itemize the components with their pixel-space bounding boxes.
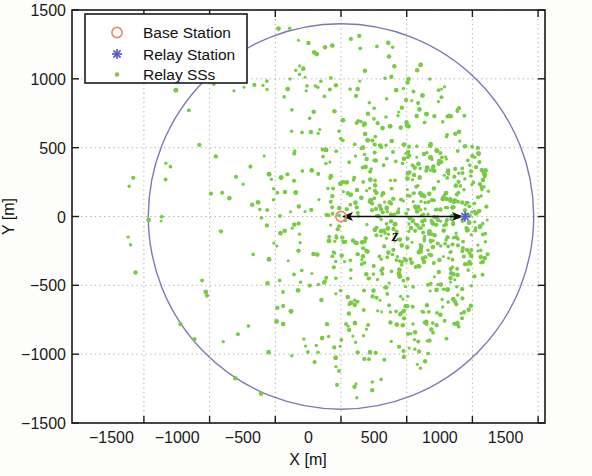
relay-ss-point bbox=[324, 276, 328, 280]
relay-ss-point bbox=[328, 176, 332, 180]
relay-ss-point bbox=[428, 143, 433, 148]
relay-ss-point bbox=[385, 222, 389, 226]
relay-ss-point bbox=[479, 261, 482, 264]
relay-ss-point bbox=[455, 267, 459, 271]
relay-ss-point bbox=[424, 112, 429, 117]
relay-ss-point bbox=[413, 338, 416, 341]
relay-ss-point bbox=[334, 292, 337, 295]
relay-ss-point bbox=[362, 334, 365, 337]
relay-ss-point bbox=[380, 310, 383, 313]
relay-ss-point bbox=[169, 165, 173, 169]
relay-ss-point bbox=[293, 190, 298, 195]
relay-ss-point bbox=[370, 388, 374, 392]
relay-ss-point bbox=[298, 73, 302, 77]
relay-ss-point bbox=[477, 160, 481, 164]
relay-ss-point bbox=[466, 308, 471, 313]
relay-ss-point bbox=[414, 265, 418, 269]
relay-ss-point bbox=[419, 244, 424, 249]
relay-ss-point bbox=[446, 170, 450, 174]
relay-ss-point bbox=[397, 272, 401, 276]
relay-ss-point bbox=[432, 198, 436, 202]
relay-ss-point bbox=[388, 281, 391, 284]
relay-ss-point bbox=[448, 197, 453, 202]
relay-ss-point bbox=[303, 76, 306, 79]
relay-ss-point bbox=[426, 352, 430, 356]
relay-ss-point bbox=[236, 332, 240, 336]
relay-ss-point bbox=[256, 200, 261, 205]
relay-ss-point bbox=[467, 204, 471, 208]
relay-ss-point bbox=[409, 226, 413, 230]
relay-ss-point bbox=[372, 264, 376, 268]
relay-ss-point bbox=[352, 176, 356, 180]
relay-ss-point bbox=[413, 330, 418, 335]
relay-ss-point bbox=[265, 79, 269, 83]
relay-ss-point bbox=[368, 187, 371, 190]
relay-ss-point bbox=[470, 233, 473, 236]
relay-ss-point bbox=[396, 210, 401, 215]
relay-ss-point bbox=[404, 152, 407, 155]
relay-ss-point bbox=[404, 304, 408, 308]
relay-ss-point bbox=[441, 306, 444, 309]
relay-ss-point bbox=[375, 45, 379, 49]
relay-ss-point bbox=[385, 256, 389, 260]
relay-ss-point bbox=[419, 367, 422, 370]
relay-ss-point bbox=[368, 101, 371, 104]
relay-ss-point bbox=[445, 287, 450, 292]
relay-ss-point bbox=[434, 148, 439, 153]
relay-ss-point bbox=[297, 39, 300, 42]
relay-ss-point bbox=[476, 146, 480, 150]
relay-ss-point bbox=[443, 193, 447, 197]
relay-ss-point bbox=[296, 249, 300, 253]
relay-ss-point bbox=[205, 293, 209, 297]
relay-ss-point bbox=[451, 272, 455, 276]
relay-ss-point bbox=[476, 151, 481, 156]
relay-ss-point bbox=[424, 207, 427, 210]
relay-ss-point bbox=[251, 253, 254, 256]
relay-ss-point bbox=[374, 351, 378, 355]
relay-ss-point bbox=[411, 163, 415, 167]
relay-ss-point bbox=[360, 258, 363, 261]
relay-ss-point bbox=[420, 93, 425, 98]
relay-ss-point bbox=[390, 270, 394, 274]
relay-ss-point bbox=[422, 213, 425, 216]
relay-ss-point bbox=[372, 272, 376, 276]
relay-ss-point bbox=[127, 185, 130, 188]
relay-ss-point bbox=[314, 52, 319, 57]
relay-ss-point bbox=[373, 142, 377, 146]
relay-ss-point bbox=[334, 149, 338, 153]
relay-ss-point bbox=[247, 324, 251, 328]
relay-ss-point bbox=[389, 310, 392, 313]
relay-ss-point bbox=[265, 223, 269, 227]
relay-ss-point bbox=[399, 243, 404, 248]
relay-ss-point bbox=[478, 224, 483, 229]
relay-ss-point bbox=[411, 178, 414, 181]
relay-ss-point bbox=[412, 191, 416, 195]
relay-ss-point bbox=[278, 279, 282, 283]
relay-ss-point bbox=[384, 285, 389, 290]
relay-ss-point bbox=[479, 168, 483, 172]
relay-ss-point bbox=[423, 359, 427, 363]
relay-ss-point bbox=[341, 118, 346, 123]
relay-ss-point bbox=[363, 153, 367, 157]
relay-ss-point bbox=[437, 258, 442, 263]
relay-ss-point bbox=[452, 236, 456, 240]
relay-ss-point bbox=[399, 295, 402, 298]
relay-ss-point bbox=[417, 176, 421, 180]
relay-ss-point bbox=[417, 107, 422, 112]
relay-ss-point bbox=[483, 173, 486, 176]
relay-ss-point bbox=[441, 228, 446, 233]
relay-ss-point bbox=[349, 268, 353, 272]
relay-ss-point bbox=[405, 236, 409, 240]
relay-ss-point bbox=[462, 114, 466, 118]
relay-ss-point bbox=[456, 243, 460, 247]
relay-ss-point bbox=[450, 205, 454, 209]
relay-ss-point bbox=[462, 188, 465, 191]
relay-ss-point bbox=[250, 202, 254, 206]
relay-ss-point bbox=[407, 230, 410, 233]
relay-ss-point bbox=[363, 165, 368, 170]
legend-dot-icon bbox=[115, 72, 120, 77]
relay-ss-point bbox=[460, 296, 464, 300]
relay-ss-point bbox=[485, 252, 489, 256]
relay-ss-point bbox=[362, 357, 366, 361]
relay-ss-point bbox=[456, 149, 460, 153]
